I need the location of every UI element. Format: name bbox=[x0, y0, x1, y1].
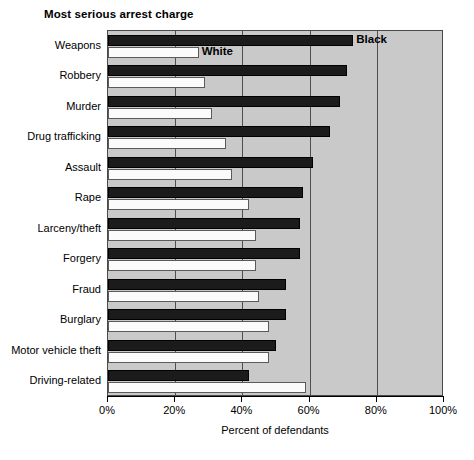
bar-black[interactable] bbox=[108, 157, 313, 168]
bar-black[interactable] bbox=[108, 279, 286, 290]
bar-black[interactable] bbox=[108, 218, 300, 229]
bar-group bbox=[108, 65, 442, 90]
plot-area bbox=[107, 30, 443, 396]
bar-black[interactable] bbox=[108, 65, 347, 76]
category-label: Rape bbox=[0, 191, 101, 203]
bar-white[interactable] bbox=[108, 169, 232, 180]
series-label-white: White bbox=[202, 45, 233, 57]
bar-white[interactable] bbox=[108, 77, 205, 88]
chart-figure: Most serious arrest charge WeaponsRobber… bbox=[0, 0, 474, 460]
bar-white[interactable] bbox=[108, 230, 256, 241]
series-label-black: Black bbox=[356, 33, 387, 45]
category-label: Murder bbox=[0, 100, 101, 112]
bar-black[interactable] bbox=[108, 96, 340, 107]
bar-white[interactable] bbox=[108, 260, 256, 271]
category-label: Larceny/theft bbox=[0, 222, 101, 234]
bar-black[interactable] bbox=[108, 126, 330, 137]
bar-group bbox=[108, 157, 442, 182]
x-tick bbox=[107, 396, 108, 402]
x-tick-label: 60% bbox=[279, 404, 339, 416]
bar-white[interactable] bbox=[108, 321, 269, 332]
x-tick bbox=[241, 396, 242, 402]
category-label: Weapons bbox=[0, 39, 101, 51]
bar-black[interactable] bbox=[108, 248, 300, 259]
x-axis-line bbox=[107, 396, 443, 397]
bar-white[interactable] bbox=[108, 138, 226, 149]
x-tick-label: 80% bbox=[346, 404, 406, 416]
bar-black[interactable] bbox=[108, 370, 249, 381]
category-label: Forgery bbox=[0, 252, 101, 264]
category-label: Fraud bbox=[0, 283, 101, 295]
y-axis-category-labels: WeaponsRobberyMurderDrug traffickingAssa… bbox=[0, 30, 101, 396]
bar-black[interactable] bbox=[108, 187, 303, 198]
x-tick bbox=[309, 396, 310, 402]
x-axis-title: Percent of defendants bbox=[107, 424, 443, 436]
bar-group bbox=[108, 279, 442, 304]
bar-group bbox=[108, 248, 442, 273]
x-tick-label: 100% bbox=[413, 404, 473, 416]
bar-white[interactable] bbox=[108, 108, 212, 119]
bar-group bbox=[108, 340, 442, 365]
bar-group bbox=[108, 126, 442, 151]
bar-black[interactable] bbox=[108, 340, 276, 351]
bar-group bbox=[108, 35, 442, 60]
bar-group bbox=[108, 309, 442, 334]
bar-white[interactable] bbox=[108, 47, 199, 58]
bar-white[interactable] bbox=[108, 199, 249, 210]
bar-black[interactable] bbox=[108, 309, 286, 320]
category-label: Robbery bbox=[0, 69, 101, 81]
x-tick-label: 0% bbox=[77, 404, 137, 416]
bar-group bbox=[108, 187, 442, 212]
x-tick bbox=[443, 396, 444, 402]
category-label: Driving-related bbox=[0, 374, 101, 386]
bar-white[interactable] bbox=[108, 382, 306, 393]
category-label: Motor vehicle theft bbox=[0, 344, 101, 356]
x-tick-label: 20% bbox=[144, 404, 204, 416]
x-tick bbox=[174, 396, 175, 402]
bar-group bbox=[108, 370, 442, 395]
bar-white[interactable] bbox=[108, 291, 259, 302]
x-tick bbox=[376, 396, 377, 402]
bar-white[interactable] bbox=[108, 352, 269, 363]
category-label: Burglary bbox=[0, 313, 101, 325]
category-label: Drug trafficking bbox=[0, 130, 101, 142]
chart-title: Most serious arrest charge bbox=[44, 8, 194, 20]
bar-group bbox=[108, 96, 442, 121]
bar-group bbox=[108, 218, 442, 243]
x-tick-label: 40% bbox=[211, 404, 271, 416]
category-label: Assault bbox=[0, 161, 101, 173]
